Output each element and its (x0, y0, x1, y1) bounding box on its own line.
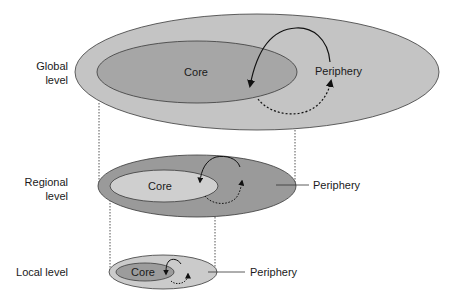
regional-level-label-line1: Regional (10, 175, 68, 189)
global-level-label-line1: Global (22, 59, 68, 73)
regional-level-label: Regional level (10, 175, 68, 203)
global-core-label: Core (184, 66, 208, 78)
regional-level: Core Periphery (98, 155, 361, 217)
local-core-label: Core (131, 266, 155, 278)
global-level-label-line2: level (22, 73, 68, 87)
local-level: Core Periphery (109, 255, 298, 289)
local-level-label-line1: Local level (2, 265, 68, 279)
global-level: Core Periphery (75, 14, 439, 130)
regional-level-label-line2: level (10, 189, 68, 203)
core-periphery-diagram: Core Periphery Core Periphery Core Perip… (0, 0, 450, 290)
local-periphery-label: Periphery (250, 266, 298, 278)
global-periphery-label: Periphery (315, 65, 363, 77)
regional-periphery-label: Periphery (313, 179, 361, 191)
regional-core-label: Core (148, 180, 172, 192)
local-level-label: Local level (2, 265, 68, 279)
global-level-label: Global level (22, 59, 68, 87)
